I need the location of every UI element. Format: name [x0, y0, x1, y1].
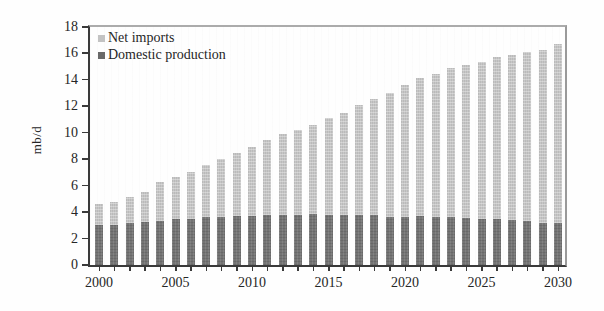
- x-tick-2003: [144, 267, 146, 271]
- x-tick-2025: [481, 267, 483, 271]
- x-tick-2020: [405, 267, 407, 271]
- bar-2003-net-imports: [141, 192, 149, 222]
- x-tick-2008: [221, 267, 223, 271]
- bar-2002-net-imports: [126, 197, 134, 223]
- y-tick-label-2: 2: [44, 232, 78, 246]
- y-tick-18: [82, 26, 88, 28]
- x-tick-2001: [114, 267, 116, 271]
- x-tick-2012: [282, 267, 284, 271]
- y-tick-label-12: 12: [44, 99, 78, 113]
- x-tick-2009: [236, 267, 238, 271]
- bar-2004-domestic-production: [156, 221, 164, 265]
- bar-2006-domestic-production: [187, 219, 195, 265]
- bar-2014-net-imports: [309, 125, 317, 214]
- x-tick-2023: [450, 267, 452, 271]
- bar-2024-domestic-production: [462, 218, 470, 265]
- bar-2011-net-imports: [263, 140, 271, 215]
- bar-2016-net-imports: [340, 113, 348, 215]
- domestic-production-swatch-icon: [98, 52, 105, 59]
- y-tick-2: [82, 238, 88, 240]
- bar-2017-net-imports: [355, 105, 363, 215]
- x-tick-2000: [99, 267, 101, 271]
- y-tick-label-6: 6: [44, 179, 78, 193]
- x-tick-2007: [206, 267, 208, 271]
- bar-2010-net-imports: [248, 147, 256, 216]
- legend-label-net-imports: Net imports: [108, 30, 175, 46]
- y-tick-14: [82, 79, 88, 81]
- bar-2008-net-imports: [217, 159, 225, 217]
- bar-2013-domestic-production: [294, 215, 302, 265]
- y-tick-16: [82, 52, 88, 54]
- y-tick-6: [82, 185, 88, 187]
- bar-2018-net-imports: [370, 99, 378, 215]
- bar-2018-domestic-production: [370, 215, 378, 265]
- legend-item-domestic-production: Domestic production: [98, 47, 226, 63]
- x-tick-2021: [420, 267, 422, 271]
- bar-2012-domestic-production: [279, 215, 287, 265]
- y-tick-label-4: 4: [44, 205, 78, 219]
- y-tick-label-18: 18: [44, 20, 78, 34]
- bar-2013-net-imports: [294, 130, 302, 215]
- x-tick-label-2005: 2005: [152, 275, 200, 290]
- x-tick-label-2025: 2025: [458, 275, 506, 290]
- bar-2008-domestic-production: [217, 217, 225, 265]
- bar-2001-domestic-production: [110, 225, 118, 265]
- bar-2002-domestic-production: [126, 223, 134, 265]
- bar-2005-net-imports: [172, 177, 180, 219]
- bar-2029-net-imports: [539, 50, 547, 223]
- bar-2017-domestic-production: [355, 215, 363, 265]
- x-tick-2013: [297, 267, 299, 271]
- bar-2028-net-imports: [523, 52, 531, 221]
- x-tick-2004: [160, 267, 162, 271]
- net-imports-swatch-icon: [98, 35, 105, 42]
- bar-2000-net-imports: [95, 204, 103, 225]
- y-tick-label-14: 14: [44, 73, 78, 87]
- bar-2026-net-imports: [493, 57, 501, 219]
- bar-2021-net-imports: [416, 78, 424, 216]
- y-tick-8: [82, 158, 88, 160]
- bar-2007-domestic-production: [202, 217, 210, 265]
- x-tick-label-2020: 2020: [381, 275, 429, 290]
- bar-2025-net-imports: [478, 62, 486, 219]
- bar-2024-net-imports: [462, 65, 470, 218]
- bar-2011-domestic-production: [263, 215, 271, 265]
- bar-2014-domestic-production: [309, 214, 317, 265]
- x-tick-2019: [389, 267, 391, 271]
- bar-2009-domestic-production: [233, 216, 241, 265]
- y-tick-label-0: 0: [44, 258, 78, 272]
- x-tick-2005: [175, 267, 177, 271]
- bar-2022-net-imports: [432, 74, 440, 217]
- bar-2026-domestic-production: [493, 219, 501, 265]
- bar-2022-domestic-production: [432, 217, 440, 265]
- x-tick-2014: [313, 267, 315, 271]
- bar-2027-net-imports: [508, 55, 516, 220]
- x-tick-2010: [252, 267, 254, 271]
- bar-2029-domestic-production: [539, 223, 547, 265]
- x-tick-2024: [466, 267, 468, 271]
- x-tick-2028: [527, 267, 529, 271]
- x-tick-label-2030: 2030: [534, 275, 582, 290]
- bar-2010-domestic-production: [248, 216, 256, 265]
- legend-item-net-imports: Net imports: [98, 30, 226, 46]
- x-tick-label-2015: 2015: [305, 275, 353, 290]
- bar-2019-net-imports: [386, 93, 394, 217]
- bar-2020-net-imports: [401, 85, 409, 217]
- x-tick-2015: [328, 267, 330, 271]
- bar-2016-domestic-production: [340, 215, 348, 265]
- x-tick-2018: [374, 267, 376, 271]
- x-tick-2006: [190, 267, 192, 271]
- figure: mb/d Net imports Domestic production 024…: [0, 0, 604, 311]
- legend: Net imports Domestic production: [98, 30, 226, 63]
- bar-2004-net-imports: [156, 182, 164, 221]
- plot-area: Net imports Domestic production: [88, 25, 567, 267]
- bar-2015-domestic-production: [325, 215, 333, 265]
- x-tick-2030: [558, 267, 560, 271]
- bar-2025-domestic-production: [478, 219, 486, 265]
- bar-2028-domestic-production: [523, 221, 531, 265]
- bar-2015-net-imports: [325, 118, 333, 215]
- bar-2023-net-imports: [447, 68, 455, 217]
- x-tick-2029: [542, 267, 544, 271]
- x-tick-label-2000: 2000: [75, 275, 123, 290]
- y-tick-0: [82, 264, 88, 266]
- y-axis-title: mb/d: [29, 126, 45, 155]
